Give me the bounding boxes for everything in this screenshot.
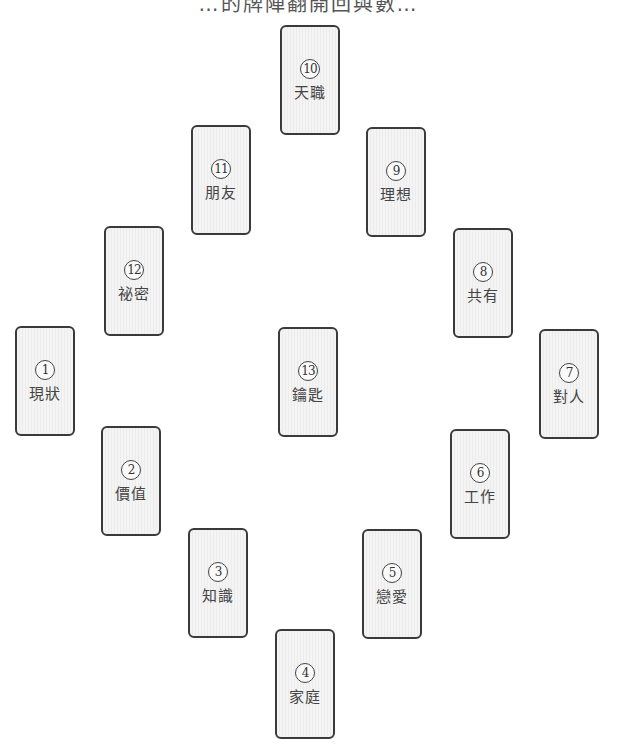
card-7: 7對人 [539, 329, 599, 439]
card-label: 價值 [115, 482, 147, 503]
card-number-badge: 7 [559, 363, 579, 383]
card-label: 共有 [467, 284, 499, 305]
card-8: 8共有 [453, 228, 513, 338]
card-number-badge: 13 [298, 361, 318, 381]
card-12: 12祕密 [104, 226, 164, 336]
card-number-badge: 10 [300, 59, 320, 79]
card-number-badge: 4 [295, 663, 315, 683]
card-number-badge: 12 [124, 260, 144, 280]
card-number-badge: 9 [386, 161, 406, 181]
card-number-badge: 3 [208, 562, 228, 582]
card-6: 6工作 [450, 429, 510, 539]
card-label: 現狀 [29, 382, 61, 403]
card-label: 家庭 [289, 685, 321, 706]
card-5: 5戀愛 [362, 529, 422, 639]
card-label: 理想 [380, 183, 412, 204]
card-11: 11朋友 [191, 125, 251, 235]
card-number-badge: 1 [35, 360, 55, 380]
card-number-badge: 6 [470, 463, 490, 483]
card-1: 1現狀 [15, 326, 75, 436]
card-label: 鑰匙 [292, 383, 324, 404]
diagram-title: …的牌陣翻開回與數… [0, 0, 617, 17]
card-label: 天職 [294, 81, 326, 102]
card-number-badge: 8 [473, 262, 493, 282]
card-9: 9理想 [366, 127, 426, 237]
card-4: 4家庭 [275, 629, 335, 739]
card-13: 13鑰匙 [278, 327, 338, 437]
card-label: 戀愛 [376, 585, 408, 606]
card-2: 2價值 [101, 426, 161, 536]
card-10: 10天職 [280, 25, 340, 135]
card-3: 3知識 [188, 528, 248, 638]
card-label: 祕密 [118, 282, 150, 303]
card-label: 對人 [553, 385, 585, 406]
card-label: 工作 [464, 485, 496, 506]
card-label: 知識 [202, 584, 234, 605]
card-number-badge: 5 [382, 563, 402, 583]
card-number-badge: 2 [121, 460, 141, 480]
card-label: 朋友 [205, 181, 237, 202]
card-number-badge: 11 [211, 159, 231, 179]
